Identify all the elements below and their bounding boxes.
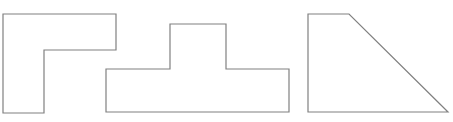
shapes-canvas xyxy=(0,0,453,122)
t-shape xyxy=(106,24,289,112)
l-shape xyxy=(3,14,116,113)
trapezoid-shape xyxy=(308,14,448,112)
